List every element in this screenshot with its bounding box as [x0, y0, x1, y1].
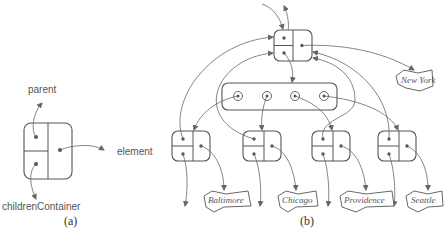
providence-element: Providence — [340, 191, 394, 212]
element-label: element — [117, 146, 153, 157]
tree-structure-b: New York — [172, 4, 443, 228]
chicago-element: Chicago — [278, 191, 318, 212]
tree-diagram: parent element childrenContainer (a) New… — [0, 0, 447, 231]
parent-label: parent — [28, 84, 57, 95]
child-node-4 — [378, 131, 416, 161]
baltimore-element: Baltimore — [204, 191, 251, 212]
children-container-label: childrenContainer — [2, 201, 81, 212]
seattle-element: Seattle — [406, 191, 443, 212]
children-container — [222, 83, 337, 110]
child-node-1 — [172, 131, 210, 161]
node-structure-a: parent element childrenContainer (a) — [2, 84, 153, 228]
child-node-2 — [243, 131, 281, 161]
child-label-2: Chicago — [282, 195, 313, 205]
child-label-3: Providence — [343, 195, 385, 205]
caption-a: (a) — [64, 214, 77, 228]
new-york-label: New York — [400, 75, 436, 85]
caption-b: (b) — [300, 214, 314, 228]
child-label-4: Seattle — [411, 195, 436, 205]
new-york-element: New York — [396, 70, 436, 91]
child-label-1: Baltimore — [208, 195, 244, 205]
child-node-3 — [312, 131, 350, 161]
